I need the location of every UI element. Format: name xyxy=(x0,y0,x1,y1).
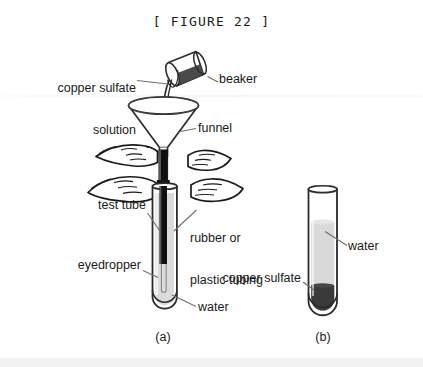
label-eyedropper: eyedropper xyxy=(20,258,141,272)
label-beaker: beaker xyxy=(219,72,257,86)
label-rubber-or-plastic-tubing: rubber or plastic tubing xyxy=(190,203,263,315)
label-water-b: water xyxy=(348,239,379,253)
label-water-a: water xyxy=(198,300,229,314)
test-tube-icon xyxy=(309,186,338,315)
label-copper-sulfate-b: copper sulfate xyxy=(203,271,301,285)
test-tube-icon xyxy=(153,183,177,309)
leader-funnel xyxy=(181,129,197,132)
label-copper-sulfate-solution: copper sulfate solution xyxy=(14,53,136,165)
label-copper-sulfate-solution-line2: solution xyxy=(14,123,136,137)
leader-copper-sulfate-solution xyxy=(137,81,168,85)
leader-beaker xyxy=(208,77,219,83)
label-copper-sulfate-solution-line1: copper sulfate xyxy=(14,81,136,95)
label-tubing-line1: rubber or xyxy=(190,231,263,245)
beaker-icon xyxy=(163,51,209,88)
footer-band xyxy=(0,358,423,367)
panel-caption-b: (b) xyxy=(301,330,345,344)
label-test-tube: test tube xyxy=(30,198,146,212)
panel-caption-a: (a) xyxy=(141,330,185,344)
tubing-icon xyxy=(157,150,169,187)
label-funnel: funnel xyxy=(198,121,232,135)
figure-container: [ FIGURE 22 ] xyxy=(0,0,423,367)
hand-icon xyxy=(191,179,243,201)
hand-icon xyxy=(188,150,231,170)
